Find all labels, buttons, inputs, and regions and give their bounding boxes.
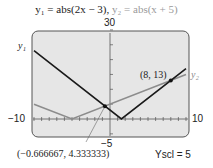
y2-curve-label: y₂: [191, 69, 199, 80]
xmin-label: −10: [8, 113, 25, 124]
xmax-label: 10: [192, 113, 203, 124]
point-annotation-intersection: (−0.666667, 4.333333): [17, 148, 109, 159]
point-annotation-8-13: (8, 13): [140, 69, 167, 80]
yscl-label: Yscl = 5: [155, 149, 191, 160]
y1-curve-label: y₁: [18, 40, 26, 51]
